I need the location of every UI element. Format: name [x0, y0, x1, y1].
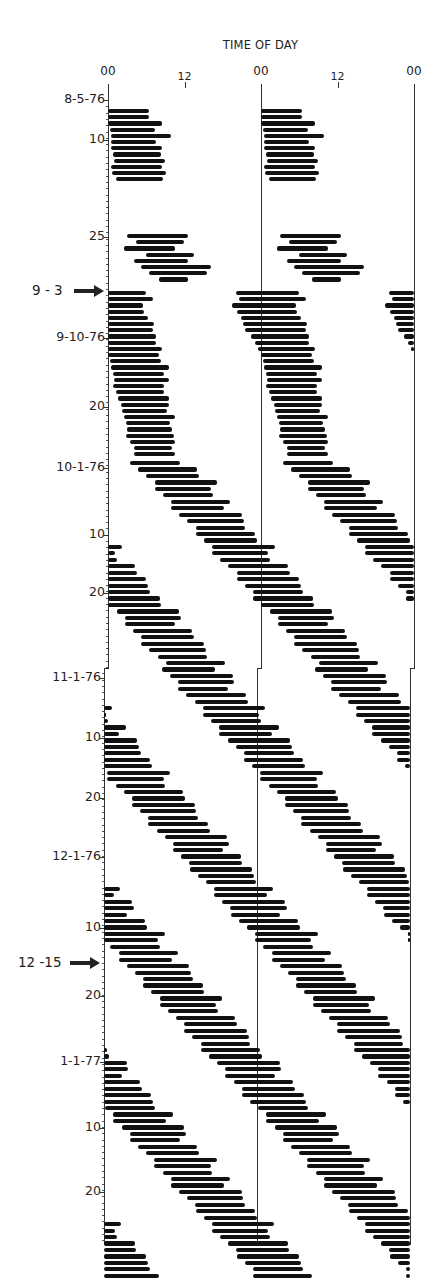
activity-bar — [356, 706, 410, 710]
activity-bar — [138, 1145, 197, 1149]
x-tick-mark — [185, 82, 186, 88]
day-tick — [106, 384, 108, 385]
activity-bar — [108, 577, 146, 581]
activity-bar — [252, 764, 305, 768]
activity-bar — [408, 932, 410, 936]
activity-bar — [141, 642, 203, 646]
activity-bar — [113, 372, 164, 376]
activity-bar — [124, 246, 175, 250]
activity-bar — [255, 932, 317, 936]
day-tick — [102, 875, 104, 876]
activity-bar — [370, 1061, 410, 1065]
day-tick — [102, 692, 104, 693]
activity-bar — [165, 835, 227, 839]
activity-bar — [265, 171, 319, 175]
activity-bar — [236, 291, 300, 295]
activity-bar — [241, 316, 302, 320]
activity-bar — [127, 427, 172, 431]
day-tick — [106, 321, 108, 322]
activity-bar — [195, 700, 248, 704]
activity-bar — [111, 165, 162, 169]
day-tick — [106, 276, 108, 277]
day-tick — [106, 188, 108, 189]
day-tick — [102, 1001, 104, 1002]
activity-bar — [397, 751, 410, 755]
activity-bar — [247, 925, 300, 929]
activity-bar — [214, 893, 267, 897]
day-tick — [106, 119, 108, 120]
activity-bar — [116, 784, 166, 788]
activity-bar — [179, 513, 241, 517]
activity-bar — [201, 1048, 260, 1052]
day-tick — [106, 220, 108, 221]
activity-bar — [267, 378, 321, 382]
activity-bar — [104, 887, 120, 891]
activity-bar — [122, 409, 167, 413]
activity-bar — [143, 983, 202, 987]
activity-bar — [367, 893, 410, 897]
activity-bar — [398, 328, 414, 332]
activity-bar — [104, 1093, 151, 1097]
day-tick — [102, 699, 104, 700]
day-tick — [102, 1190, 104, 1191]
activity-bar — [261, 115, 302, 119]
activity-bar — [398, 584, 414, 588]
activity-bar — [264, 134, 325, 138]
day-tick — [106, 358, 108, 359]
activity-bar — [349, 532, 408, 536]
activity-bar — [148, 822, 207, 826]
day-tick — [102, 787, 104, 788]
activity-bar — [220, 558, 270, 562]
activity-bar — [190, 867, 252, 871]
day-tick — [102, 799, 104, 800]
activity-bar — [263, 128, 308, 132]
activity-bar — [255, 341, 309, 345]
day-tick — [106, 308, 108, 309]
day-tick — [102, 862, 104, 863]
activity-bar — [178, 687, 228, 691]
day-tick — [106, 667, 108, 668]
day-tick — [106, 371, 108, 372]
activity-bar — [126, 421, 171, 425]
day-tick — [102, 755, 104, 756]
day-tick — [106, 434, 108, 435]
day-tick — [106, 428, 108, 429]
activity-bar — [231, 913, 281, 917]
activity-bar — [111, 134, 172, 138]
activity-bar — [127, 234, 188, 238]
activity-bar — [212, 1229, 268, 1233]
date-tick — [100, 798, 104, 799]
date-label: 10 — [89, 131, 105, 146]
day-tick — [106, 226, 108, 227]
activity-bar — [219, 732, 272, 736]
day-tick — [102, 982, 104, 983]
activity-bar — [308, 480, 370, 484]
activity-bar — [274, 403, 322, 407]
day-tick — [102, 1152, 104, 1153]
activity-bar — [220, 1235, 270, 1239]
activity-bar — [134, 259, 188, 263]
activity-bar — [104, 900, 132, 904]
activity-bar — [326, 848, 376, 852]
activity-bar — [334, 854, 393, 858]
day-tick — [106, 541, 108, 542]
date-tick — [104, 237, 108, 238]
activity-bar — [293, 809, 349, 813]
activity-bar — [389, 745, 410, 749]
day-boundary-line — [410, 668, 411, 1245]
date-label: 1-1-77 — [60, 1053, 101, 1068]
activity-bar — [357, 538, 410, 542]
activity-bar — [104, 1241, 135, 1245]
activity-bar — [203, 713, 259, 717]
day-tick — [102, 963, 104, 964]
day-tick — [106, 213, 108, 214]
x-tick-label: 00 — [253, 64, 268, 78]
day-tick — [102, 850, 104, 851]
activity-bar — [324, 506, 377, 510]
activity-bar — [140, 809, 196, 813]
activity-bar — [111, 365, 168, 369]
activity-bar — [104, 1229, 115, 1233]
activity-bar — [108, 303, 143, 307]
activity-bar — [381, 564, 414, 568]
activity-bar — [111, 146, 162, 150]
